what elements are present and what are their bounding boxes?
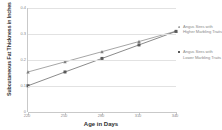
x-axis-title: Age in Days — [27, 120, 175, 128]
legend-square-marker-icon — [178, 51, 180, 53]
y-axis-tick-label: 0.4 — [12, 6, 26, 10]
gridline — [28, 8, 176, 9]
chart-figure: Subcutaneous Fat Thickness in Inches 0.4… — [0, 0, 222, 130]
x-axis-tick-label: 280 — [91, 113, 111, 118]
series-group — [27, 30, 178, 87]
legend-entry[interactable]: Angus Sires with Higher Marbling Traits — [178, 24, 222, 34]
plot-area — [27, 8, 175, 112]
data-point-marker — [64, 70, 67, 73]
y-axis-tick-label: 0.2 — [12, 58, 26, 62]
y-axis-tick-label: 0.3 — [12, 32, 26, 36]
x-axis-tick-label: 250 — [54, 113, 74, 118]
legend-entry[interactable]: Angus Sires with Lower Marbling Traits — [178, 49, 222, 59]
x-axis-tick-label: 220 — [17, 113, 37, 118]
legend-label: Angus Sires with Lower Marbling Traits — [183, 49, 222, 59]
gridline — [28, 86, 176, 87]
series-group — [26, 29, 177, 73]
x-axis-tick-labels: 220250280310340 — [27, 113, 175, 120]
gridline — [28, 60, 176, 61]
data-point-marker — [138, 43, 141, 46]
x-axis-tick-label: 340 — [165, 113, 185, 118]
x-axis-tick-label: 310 — [128, 113, 148, 118]
y-axis-tick-label: 0.1 — [12, 84, 26, 88]
chart-legend: Angus Sires with Higher Marbling TraitsA… — [178, 24, 222, 75]
legend-label: Angus Sires with Higher Marbling Traits — [183, 24, 222, 34]
y-axis-tick-labels: 0.40.30.20.10 — [12, 0, 26, 112]
gridline — [28, 34, 176, 35]
legend-triangle-marker-icon — [178, 26, 180, 28]
